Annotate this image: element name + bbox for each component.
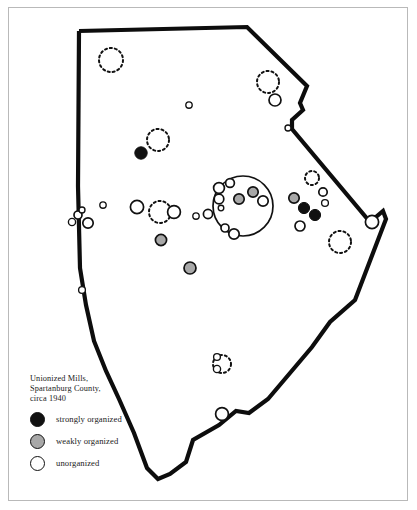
mill-marker-unorganized: [83, 218, 93, 228]
mill-marker-strongly: [309, 209, 320, 220]
mill-marker-unorganized: [226, 179, 235, 188]
mill-marker-unorganized: [365, 215, 378, 228]
mill-marker-unorganized: [285, 125, 291, 131]
legend-swatch-strongly-organized: [30, 412, 45, 427]
legend-label-strongly-organized: strongly organized: [56, 414, 122, 424]
city-circle-town-nw: [99, 48, 123, 72]
legend-entry-unorganized: unorganized: [30, 456, 170, 471]
mill-marker-unorganized: [193, 213, 199, 219]
mill-marker-unorganized: [79, 287, 86, 294]
mill-marker-unorganized: [221, 224, 229, 232]
mill-marker-unorganized: [130, 200, 143, 213]
mill-marker-unorganized: [168, 206, 181, 219]
mill-marker-unorganized: [218, 205, 224, 211]
legend-swatch-unorganized: [30, 456, 45, 471]
mill-marker-unorganized: [214, 194, 224, 204]
mill-marker-weakly: [248, 187, 258, 197]
legend-label-unorganized: unorganized: [56, 458, 99, 468]
mill-markers: [68, 94, 378, 420]
mill-marker-unorganized: [100, 202, 106, 208]
mill-marker-weakly: [234, 194, 244, 204]
city-circle-town-north-mid: [147, 129, 169, 151]
mill-marker-unorganized: [203, 209, 212, 218]
mill-marker-unorganized: [322, 200, 329, 207]
legend-title: Unionized Mills, Spartanburg County, cir…: [30, 374, 170, 405]
mill-marker-unorganized: [258, 196, 268, 206]
mill-marker-weakly: [184, 262, 196, 274]
mill-marker-unorganized: [319, 188, 327, 196]
mill-marker-unorganized: [216, 408, 229, 421]
mill-marker-unorganized: [79, 207, 85, 213]
city-circle-town-ne: [257, 71, 279, 93]
mill-marker-unorganized: [295, 221, 305, 231]
mill-marker-unorganized: [68, 218, 75, 225]
mill-marker-strongly: [135, 147, 147, 159]
mill-marker-weakly: [155, 234, 166, 245]
map-figure: Unionized Mills, Spartanburg County, cir…: [0, 0, 417, 510]
map-legend: Unionized Mills, Spartanburg County, cir…: [30, 374, 170, 471]
mill-marker-unorganized: [186, 102, 192, 108]
mill-marker-unorganized: [269, 94, 281, 106]
legend-entry-weakly: weakly organized: [30, 434, 170, 449]
city-circle-town-east: [329, 231, 351, 253]
legend-entry-strongly: strongly organized: [30, 412, 170, 427]
city-circle-town-east-upper: [305, 171, 319, 185]
mill-marker-unorganized: [229, 229, 239, 239]
legend-swatch-weakly-organized: [30, 434, 45, 449]
mill-marker-unorganized: [214, 183, 225, 194]
legend-label-weakly-organized: weakly organized: [56, 436, 118, 446]
mill-marker-unorganized: [213, 365, 220, 372]
mill-marker-unorganized: [214, 354, 221, 361]
mill-marker-strongly: [298, 202, 309, 213]
mill-marker-weakly: [289, 193, 299, 203]
